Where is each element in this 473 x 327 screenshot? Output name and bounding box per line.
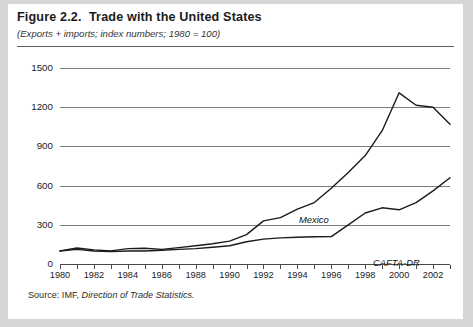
header-divider bbox=[17, 46, 454, 47]
source-prefix: Source: IMF, bbox=[28, 290, 82, 300]
source-publication: Direction of Trade Statistics. bbox=[82, 290, 195, 300]
chart-series-lines bbox=[17, 54, 454, 278]
figure-subtitle: (Exports + imports; index numbers; 1980 … bbox=[17, 28, 220, 39]
chart-plot-area: 030060090012001500 198019821984198619881… bbox=[17, 54, 454, 278]
source-note: Source: IMF, Direction of Trade Statisti… bbox=[28, 290, 195, 300]
page-title: Figure 2.2. Trade with the United States bbox=[17, 10, 262, 24]
line-series-cafta-dr bbox=[60, 178, 450, 252]
figure-page: Figure 2.2. Trade with the United States… bbox=[0, 0, 473, 327]
series-label-mexico: Mexico bbox=[299, 214, 329, 225]
series-label-cafta-dr: CAFTA-DR bbox=[373, 257, 420, 268]
line-series-mexico bbox=[60, 93, 450, 251]
figure-card: Figure 2.2. Trade with the United States… bbox=[8, 4, 463, 319]
